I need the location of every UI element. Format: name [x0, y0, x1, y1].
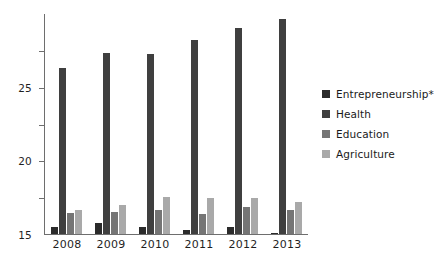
- bar: [155, 210, 162, 234]
- bar: [75, 210, 82, 234]
- chart-legend: Entrepreneurship*HealthEducationAgricult…: [322, 84, 436, 164]
- bar: [251, 198, 258, 234]
- legend-item[interactable]: Entrepreneurship*: [322, 84, 436, 104]
- bar: [287, 210, 294, 234]
- bar-group-2008: [45, 14, 89, 234]
- bar-group-2010: [133, 14, 177, 234]
- legend-item[interactable]: Health: [322, 104, 436, 124]
- y-tick-label: 20: [18, 155, 32, 167]
- x-tick-label-2008: 2008: [45, 238, 89, 251]
- bar: [139, 227, 146, 234]
- bar: [199, 214, 206, 234]
- bar: [207, 198, 214, 234]
- x-tick-label-2012: 2012: [221, 238, 265, 251]
- y-tick-mark: 25: [39, 51, 44, 52]
- bar: [111, 212, 118, 234]
- bar: [243, 207, 250, 234]
- bar-group-2009: [89, 14, 133, 234]
- bar: [67, 213, 74, 234]
- y-tick-mark: 15: [39, 125, 44, 126]
- legend-label: Health: [336, 108, 371, 120]
- legend-label: Agriculture: [336, 148, 395, 160]
- legend-label: Education: [336, 128, 389, 140]
- bar-group-2011: [176, 14, 220, 234]
- bar: [59, 68, 66, 234]
- legend-swatch-icon: [322, 90, 330, 98]
- legend-label: Entrepreneurship*: [336, 88, 434, 100]
- bar: [51, 227, 58, 234]
- bar: [271, 233, 278, 234]
- bar: [147, 54, 154, 234]
- legend-item[interactable]: Agriculture: [322, 144, 436, 164]
- x-tick-label-2013: 2013: [265, 238, 309, 251]
- y-tick-label: 15: [18, 229, 32, 241]
- bar: [103, 53, 110, 234]
- x-tick-label-2009: 2009: [89, 238, 133, 251]
- y-tick-mark: 5: [39, 198, 44, 199]
- x-axis-tick-labels: 200820092010201120122013: [45, 238, 309, 251]
- bar: [95, 223, 102, 234]
- legend-swatch-icon: [322, 150, 330, 158]
- legend-swatch-icon: [322, 110, 330, 118]
- bar: [163, 197, 170, 234]
- bar: [119, 205, 126, 234]
- y-tick-mark: 10: [39, 161, 44, 162]
- y-tick-label: 25: [18, 82, 32, 94]
- bar: [279, 19, 286, 234]
- y-tick-mark: 20: [39, 88, 44, 89]
- x-tick-label-2010: 2010: [133, 238, 177, 251]
- bar: [227, 227, 234, 234]
- legend-item[interactable]: Education: [322, 124, 436, 144]
- chart-figure: 510152025 200820092010201120122013 Entre…: [0, 0, 438, 263]
- x-axis-line: [44, 234, 308, 235]
- x-tick-label-2011: 2011: [177, 238, 221, 251]
- bar-group-2012: [220, 14, 264, 234]
- bar: [183, 230, 190, 234]
- bar-groups: [45, 14, 308, 234]
- bar: [295, 202, 302, 234]
- bar-group-2013: [264, 14, 308, 234]
- plot-area: 510152025: [44, 14, 308, 235]
- bar: [235, 28, 242, 234]
- legend-swatch-icon: [322, 130, 330, 138]
- bar: [191, 40, 198, 234]
